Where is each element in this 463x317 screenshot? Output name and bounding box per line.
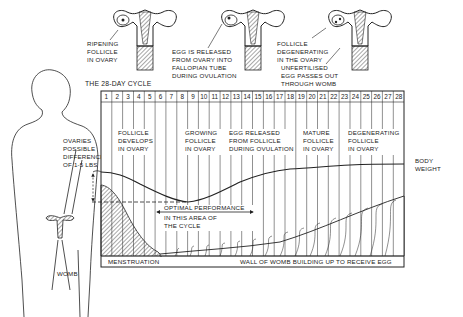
svg-text:EGG PASSES OUT: EGG PASSES OUT [281, 72, 338, 79]
svg-text:DURING OVULATION: DURING OVULATION [229, 145, 294, 152]
svg-text:FROM OVARY INTO: FROM OVARY INTO [172, 56, 232, 63]
svg-text:FOLLICLE: FOLLICLE [87, 48, 118, 55]
svg-text:IN OVARY: IN OVARY [303, 145, 334, 152]
svg-text:13: 13 [233, 93, 241, 100]
svg-text:UNFERTILISED: UNFERTILISED [281, 64, 328, 71]
svg-text:IN THIS AREA OF: IN THIS AREA OF [164, 214, 217, 221]
womb-icon [46, 216, 74, 238]
svg-text:DEVELOPS: DEVELOPS [118, 137, 153, 144]
svg-text:11: 11 [211, 93, 218, 100]
menstruation-label: MENSTRUATION [108, 258, 159, 265]
svg-text:7: 7 [170, 93, 174, 100]
svg-text:OPTIMAL PERFORMANCE: OPTIMAL PERFORMANCE [164, 204, 245, 211]
svg-text:23: 23 [341, 93, 349, 100]
womb-label: WOMB [57, 270, 78, 277]
chart-title: THE 28-DAY CYCLE [85, 80, 152, 87]
svg-text:15: 15 [254, 93, 262, 100]
body-weight-label: BODY WEIGHT [415, 157, 441, 172]
svg-text:RIPENING: RIPENING [87, 40, 119, 47]
svg-text:28: 28 [395, 93, 403, 100]
stage-label-degenerating: FOLLICLE DEGENERATING IN THE OVARY [277, 28, 328, 63]
uterus-icon-ripening [114, 10, 177, 70]
svg-text:DIFFERENCE: DIFFERENCE [63, 153, 105, 160]
phase-label-mature-follicle: MATURE FOLLICLE IN OVARY [300, 129, 336, 155]
svg-text:WEIGHT: WEIGHT [415, 165, 441, 172]
svg-text:6: 6 [159, 93, 163, 100]
svg-text:26: 26 [373, 93, 381, 100]
svg-text:FOLLICLE: FOLLICLE [348, 137, 379, 144]
svg-text:FOLLICLE: FOLLICLE [303, 137, 334, 144]
svg-text:IN THE OVARY: IN THE OVARY [277, 56, 322, 63]
svg-text:POSSIBLE: POSSIBLE [63, 145, 95, 152]
svg-text:MATURE: MATURE [303, 129, 330, 136]
svg-text:18: 18 [287, 93, 295, 100]
svg-text:20: 20 [309, 93, 317, 100]
svg-text:21: 21 [319, 93, 327, 100]
svg-text:IN OVARY: IN OVARY [348, 145, 379, 152]
svg-text:14: 14 [244, 93, 252, 100]
svg-text:9: 9 [191, 93, 195, 100]
svg-text:27: 27 [384, 93, 392, 100]
svg-text:THE CYCLE: THE CYCLE [164, 222, 201, 229]
phase-label-growing-follicle: GROWING FOLLICLE IN OVARY [182, 129, 222, 155]
ovaries-weight-label: OVARIES POSSIBLE DIFFERENCE OF 1-5 LBS [63, 137, 105, 168]
svg-text:FOLLICLE: FOLLICLE [118, 129, 149, 136]
svg-text:IN OVARY: IN OVARY [185, 145, 216, 152]
svg-text:8: 8 [180, 93, 184, 100]
day-numbers: 1 2 3 4 5 6 7 8 9 10 11 12 13 14 15 16 1… [105, 93, 403, 100]
svg-text:4: 4 [137, 93, 141, 100]
svg-text:IN OVARY: IN OVARY [118, 145, 149, 152]
svg-text:DEGENERATING: DEGENERATING [277, 48, 328, 55]
svg-text:22: 22 [330, 93, 338, 100]
svg-text:GROWING: GROWING [185, 129, 217, 136]
svg-text:FROM FOLLICLE: FROM FOLLICLE [229, 137, 281, 144]
phase-label-degenerating-follicle: DEGENERATING FOLLICLE IN OVARY [346, 129, 399, 155]
svg-text:5: 5 [148, 93, 152, 100]
svg-text:1: 1 [105, 93, 109, 100]
body-silhouette [12, 70, 98, 317]
womb-wall-label: WALL OF WOMB BUILDING UP TO RECEIVE EGG [240, 258, 392, 265]
uterus-icon-degenerating [329, 10, 392, 70]
svg-text:24: 24 [352, 93, 360, 100]
svg-text:10: 10 [200, 93, 208, 100]
phase-label-egg-released: EGG RELEASED FROM FOLLICLE DURING OVULAT… [226, 129, 294, 155]
svg-text:THROUGH WOMB: THROUGH WOMB [281, 80, 336, 87]
svg-text:OF 1-5 LBS: OF 1-5 LBS [63, 161, 98, 168]
svg-text:FOLLICLE: FOLLICLE [185, 137, 216, 144]
svg-text:19: 19 [298, 93, 306, 100]
svg-text:EGG RELEASED: EGG RELEASED [229, 129, 280, 136]
svg-text:17: 17 [276, 93, 284, 100]
svg-text:DEGENERATING: DEGENERATING [348, 129, 399, 136]
menstrual-cycle-diagram: RIPENING FOLLICLE IN OVARY EGG IS RELEAS… [0, 0, 463, 317]
svg-text:FOLLICLE: FOLLICLE [277, 40, 308, 47]
svg-text:FALLOPIAN TUBE: FALLOPIAN TUBE [172, 64, 227, 71]
svg-text:IN OVARY: IN OVARY [87, 56, 118, 63]
cycle-chart-box: MENSTRUATION WALL OF WOMB BUILDING UP TO… [92, 91, 404, 267]
svg-text:DURING OVULATION: DURING OVULATION [172, 72, 237, 79]
svg-text:BODY: BODY [415, 157, 433, 164]
svg-text:25: 25 [363, 93, 371, 100]
svg-text:16: 16 [265, 93, 273, 100]
svg-text:12: 12 [222, 93, 230, 100]
svg-text:2: 2 [115, 93, 119, 100]
svg-text:EGG IS RELEASED: EGG IS RELEASED [172, 48, 231, 55]
stage-label-ripening: RIPENING FOLLICLE IN OVARY [87, 30, 119, 63]
svg-text:3: 3 [126, 93, 130, 100]
stage-label-ovulation: EGG IS RELEASED FROM OVARY INTO FALLOPIA… [172, 24, 237, 79]
phase-label-follicle-develops: FOLLICLE DEVELOPS IN OVARY [115, 129, 153, 155]
svg-text:OVARIES: OVARIES [63, 137, 91, 144]
